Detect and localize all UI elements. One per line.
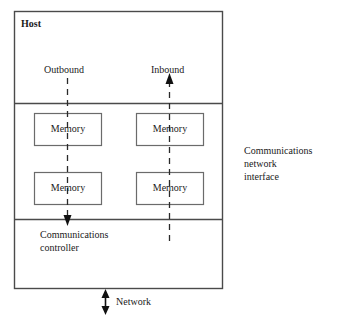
- memory-label-inbound-lower: Memory: [136, 182, 204, 194]
- inbound-label: Inbound: [151, 64, 184, 76]
- outbound-arrowhead-icon: [64, 215, 72, 226]
- memory-label-inbound-upper: Memory: [136, 123, 204, 135]
- memory-label-outbound-upper: Memory: [34, 123, 102, 135]
- network-label: Network: [116, 296, 151, 308]
- network-arrowhead-down-icon: [102, 306, 110, 315]
- outbound-label: Outbound: [44, 64, 84, 76]
- host-label: Host: [21, 18, 41, 30]
- communications-network-interface-label: Communications network interface: [244, 144, 312, 183]
- network-arrowhead-up-icon: [102, 289, 110, 298]
- diagram-canvas: Host Outbound Inbound Memory Memory Memo…: [0, 0, 341, 329]
- communications-controller-label: Communications controller: [40, 228, 108, 254]
- memory-label-outbound-lower: Memory: [34, 182, 102, 194]
